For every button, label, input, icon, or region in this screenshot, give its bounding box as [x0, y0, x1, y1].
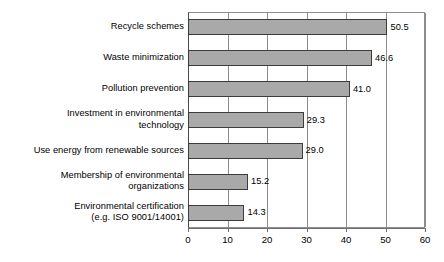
- bar-value-label: 29.3: [307, 115, 325, 126]
- x-tick: [307, 228, 308, 232]
- x-tick: [386, 228, 387, 232]
- bar-value-label: 14.3: [247, 207, 265, 218]
- category-label: Environmental certification (e.g. ISO 90…: [0, 201, 184, 223]
- bar: [188, 174, 248, 190]
- category-label: Recycle schemes: [0, 21, 184, 32]
- gridline-60: [425, 13, 426, 227]
- bar: [188, 50, 372, 66]
- category-axis-labels: Recycle schemesWaste minimizationPolluti…: [0, 12, 184, 228]
- x-tick: [188, 228, 189, 232]
- bar: [188, 19, 387, 35]
- bar-value-label: 46.6: [375, 53, 393, 64]
- bar: [188, 81, 350, 97]
- bar: [188, 205, 244, 221]
- category-label: Use energy from renewable sources: [0, 145, 184, 156]
- bar-value-label: 50.5: [390, 22, 408, 33]
- x-tick-label: 60: [420, 234, 431, 245]
- category-label: Pollution prevention: [0, 83, 184, 94]
- bar: [188, 143, 303, 159]
- x-tick: [228, 228, 229, 232]
- x-tick: [425, 228, 426, 232]
- bar-value-label: 15.2: [251, 176, 269, 187]
- x-tick-label: 30: [301, 234, 312, 245]
- bars-layer: 50.546.641.029.329.015.214.3: [188, 12, 425, 228]
- category-label: Membership of environmental organization…: [0, 170, 184, 192]
- x-tick-label: 40: [341, 234, 352, 245]
- x-tick-label: 20: [262, 234, 273, 245]
- category-label: Waste minimization: [0, 52, 184, 63]
- bar-value-label: 29.0: [306, 145, 324, 156]
- bar-value-label: 41.0: [353, 84, 371, 95]
- x-tick-label: 50: [380, 234, 391, 245]
- bar: [188, 112, 304, 128]
- category-label: Investment in environmental technology: [0, 108, 184, 130]
- x-tick: [346, 228, 347, 232]
- x-tick-label: 10: [222, 234, 233, 245]
- x-tick-label: 0: [185, 234, 190, 245]
- x-tick: [267, 228, 268, 232]
- bar-chart: Recycle schemesWaste minimizationPolluti…: [0, 0, 444, 262]
